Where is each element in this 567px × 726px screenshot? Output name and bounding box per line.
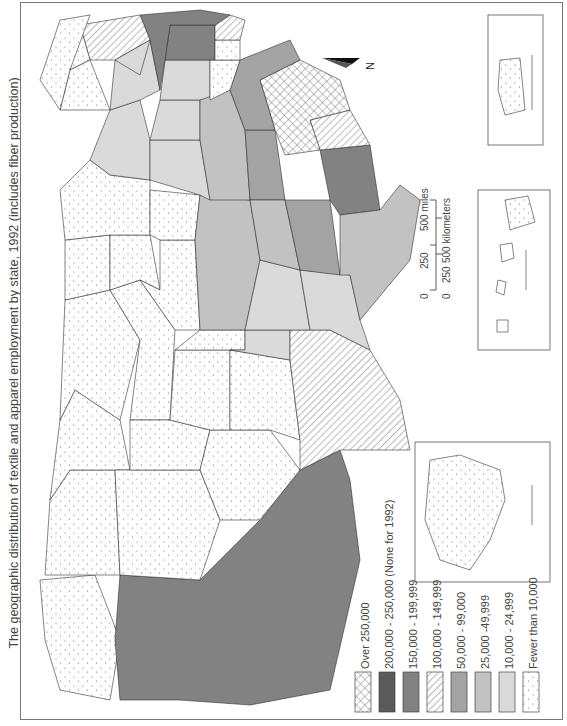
legend-swatch-200000-250000 — [379, 672, 395, 712]
legend-swatch-25000-49999 — [475, 672, 491, 712]
scale-mi-0: 0 — [419, 293, 430, 299]
inset-hawaii — [478, 190, 550, 350]
legend-swatch-100000-149999 — [427, 672, 443, 712]
legend-swatch-under-10000 — [523, 672, 539, 712]
north-arrow-icon: N — [322, 58, 376, 70]
state-north-dakota — [65, 235, 110, 300]
inset-alaska — [415, 442, 550, 582]
state-washington — [40, 575, 120, 700]
state-pennsylvania — [165, 25, 215, 60]
legend-label-0: Over 250,000 — [359, 602, 371, 669]
scale-km-250: 250 — [441, 266, 452, 283]
state-texas — [290, 330, 410, 470]
legend-label-7: Fewer than 10,000 — [527, 577, 539, 669]
state-colorado — [170, 350, 230, 430]
state-utah — [130, 420, 210, 470]
state-indiana — [150, 100, 200, 140]
scale-mi-500: 500 miles — [419, 188, 430, 231]
scale-km-0: 0 — [441, 293, 452, 299]
state-kansas — [175, 330, 245, 350]
state-maryland — [215, 40, 240, 60]
legend-label-5: 25,000 -49,999 — [479, 595, 491, 669]
legend-swatch-150000-199999 — [403, 672, 419, 712]
svg-text:N: N — [364, 62, 376, 70]
legend-swatch-over-250000 — [355, 672, 371, 712]
legend-label-1: 200,000 - 250,000 (None for 1992) — [383, 500, 395, 669]
legend-swatch-10000-24999 — [499, 672, 515, 712]
state-south-dakota — [110, 235, 160, 290]
legend-label-6: 10,000 - 24,999 — [503, 592, 515, 669]
scale-km-500: 500 kilometers — [441, 198, 452, 263]
legend-label-4: 50,000 - 99,000 — [455, 592, 467, 669]
state-new-mexico — [230, 350, 300, 440]
state-ohio — [160, 60, 210, 100]
legend-swatches — [355, 672, 539, 712]
inset-puerto-rico — [488, 15, 543, 145]
state-iowa — [150, 190, 200, 240]
state-nevada — [115, 470, 220, 580]
legend-label-2: 150,000 - 199,999 — [407, 580, 419, 669]
legend-label-3: 100,000 - 149,999 — [431, 580, 443, 669]
legend-swatch-50000-99000 — [451, 672, 467, 712]
scale-mi-250: 250 — [419, 252, 430, 269]
